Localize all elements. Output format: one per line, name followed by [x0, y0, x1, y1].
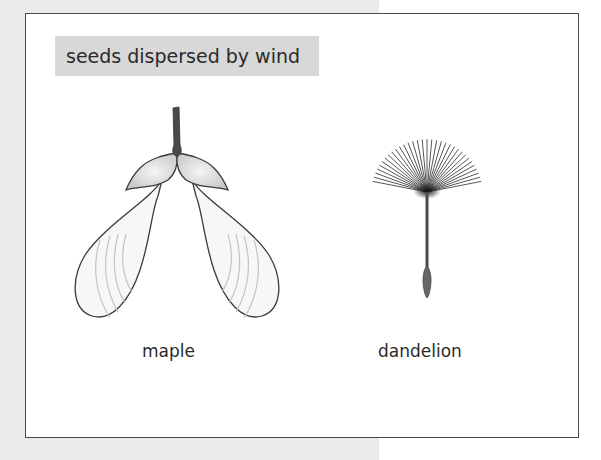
dandelion-seed-icon	[373, 140, 481, 298]
dandelion-label: dandelion	[378, 341, 462, 361]
maple-label: maple	[142, 341, 195, 361]
seed-illustrations	[0, 0, 601, 460]
maple-seed-icon	[75, 107, 279, 318]
